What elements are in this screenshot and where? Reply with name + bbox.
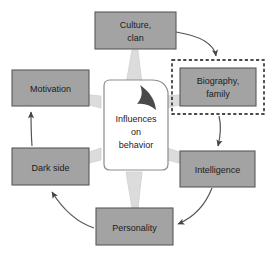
center-hub-label-line2: on (131, 127, 141, 137)
node-motivation-label: Motivation (30, 84, 71, 94)
influences-on-behavior-diagram: Culture, clan Biography, family Intellig… (0, 0, 276, 260)
node-intelligence-label: Intelligence (195, 165, 241, 175)
node-biography[interactable]: Biography, family (180, 68, 256, 106)
center-hub[interactable]: Influences on behavior (104, 80, 168, 170)
node-biography-label-line2: family (206, 89, 230, 99)
node-darkside-label: Dark side (31, 163, 69, 173)
node-darkside[interactable]: Dark side (12, 148, 89, 185)
node-culture[interactable]: Culture, clan (95, 12, 176, 49)
node-intelligence[interactable]: Intelligence (180, 151, 255, 187)
node-motivation[interactable]: Motivation (12, 70, 89, 106)
center-hub-label-line1: Influences (115, 114, 157, 124)
node-biography-label-line1: Biography, (197, 76, 239, 86)
node-biography-box[interactable] (180, 68, 256, 106)
node-culture-label-line1: Culture, (120, 20, 152, 30)
node-personality-label: Personality (112, 223, 157, 233)
node-personality[interactable]: Personality (96, 208, 173, 245)
center-hub-label-line3: behavior (119, 140, 154, 150)
center-hub-shape[interactable] (104, 80, 168, 170)
node-culture-label-line2: clan (127, 33, 144, 43)
node-culture-box[interactable] (95, 12, 176, 49)
diagram-canvas: Culture, clan Biography, family Intellig… (0, 0, 276, 260)
